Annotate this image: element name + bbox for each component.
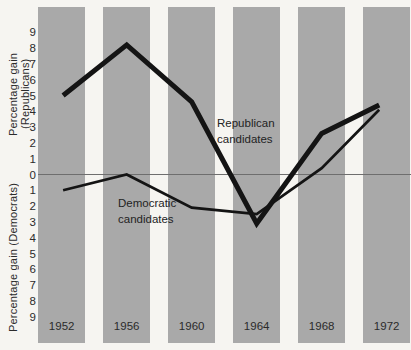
trend-lines bbox=[0, 0, 411, 350]
republican-candidates-label: Republican candidates bbox=[217, 116, 275, 147]
democratic-candidates-label: Democratic candidates bbox=[118, 196, 176, 227]
election-gain-chart: Percentage gain (Republicans) Percentage… bbox=[0, 0, 411, 350]
